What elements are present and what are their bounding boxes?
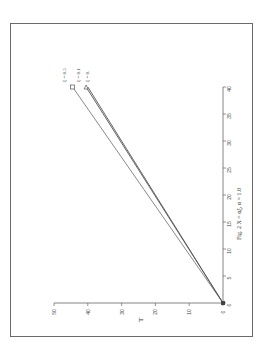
t-tick-label: 30 <box>119 309 125 315</box>
t-tick-label: 20 <box>152 309 158 315</box>
series-line <box>73 87 223 303</box>
x-tick-label: 30 <box>226 140 232 146</box>
series-label: ξ = 0.1 <box>76 68 81 82</box>
line-chart: 051015202530354001020304050 ξ = 0.5ξ = 0… <box>0 0 270 358</box>
axis-ticks: 051015202530354001020304050 <box>51 86 232 315</box>
t-tick-label: 40 <box>85 309 91 315</box>
t-tick-label: 0 <box>220 310 226 313</box>
axes <box>54 87 223 303</box>
figure-caption: Fig. 2 X = αξ, α = 1.0 <box>236 188 243 240</box>
square-marker <box>71 85 75 89</box>
x-tick-label: 25 <box>226 167 232 173</box>
t-tick-label: 50 <box>51 309 57 315</box>
origin-marker <box>221 301 225 305</box>
series-label: ξ = 0. <box>85 71 90 82</box>
series-line <box>88 87 223 303</box>
x-tick-label: 5 <box>226 276 232 279</box>
series-label: ξ = 0.5 <box>62 68 67 82</box>
x-tick-label: 20 <box>226 194 232 200</box>
x-tick-label: 40 <box>226 86 232 92</box>
x-tick-label: 0 <box>226 303 232 306</box>
x-tick-label: 15 <box>226 221 232 227</box>
triangle-marker <box>84 85 88 89</box>
x-tick-label: 35 <box>226 113 232 119</box>
t-tick-label: 10 <box>186 309 192 315</box>
t-axis-label: T <box>137 317 145 322</box>
x-tick-label: 10 <box>226 248 232 254</box>
data-lines <box>71 85 225 305</box>
series-labels: ξ = 0.5ξ = 0.1ξ = 0. <box>62 68 90 82</box>
